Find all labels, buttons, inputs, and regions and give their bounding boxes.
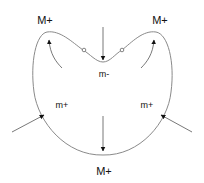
label-mid-right: m+ bbox=[141, 100, 154, 110]
label-top-right: M+ bbox=[152, 14, 168, 26]
diagram-canvas: M+ M+ m- m+ m+ M+ bbox=[0, 0, 204, 183]
label-top-left: M+ bbox=[37, 14, 53, 26]
left-saddle-marker bbox=[82, 48, 86, 52]
closed-curve bbox=[33, 32, 172, 155]
right-side-arrow bbox=[161, 115, 192, 132]
left-side-arrow bbox=[12, 115, 44, 132]
top-right-curved-arrow bbox=[141, 40, 154, 68]
label-center: m- bbox=[99, 69, 110, 79]
right-saddle-marker bbox=[120, 48, 124, 52]
top-left-curved-arrow bbox=[49, 40, 62, 68]
label-bottom: M+ bbox=[96, 165, 112, 177]
label-mid-left: m+ bbox=[56, 100, 69, 110]
